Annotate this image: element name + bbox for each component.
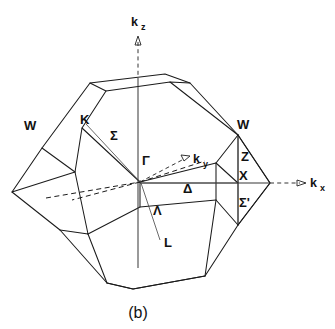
kx-label-main: k (310, 176, 317, 190)
edge-bottom-front-rim (107, 276, 205, 289)
label-z-point: Z (241, 149, 249, 164)
edge-front-lower-left (88, 182, 140, 234)
label-w-left: W (24, 118, 37, 133)
label-lambda: Λ (153, 203, 162, 218)
brillouin-zone-drawing: k z k y k x Γ W K Σ W Z X Σ' Δ Λ L (0, 0, 335, 329)
edge-upper-left-to-left-vertex (12, 148, 75, 192)
label-x-point: X (239, 168, 248, 183)
label-sigma-prime: Σ' (239, 195, 250, 210)
edge-left-square-to-bottom (88, 234, 107, 283)
ky-axis-hidden (72, 182, 140, 200)
kz-label-main: k (131, 15, 138, 29)
edge-k-left-ridge (75, 91, 106, 172)
kz-axis-label: k z (131, 15, 146, 32)
figure-caption: (b) (128, 304, 148, 321)
edge-front-right-facet-lower (140, 200, 216, 207)
edge-left-square-lower (60, 172, 88, 234)
label-delta: Δ (183, 181, 192, 196)
edge-upper-right-facet (170, 82, 238, 135)
label-w-right: W (237, 117, 250, 132)
hidden-edge-back-left (46, 182, 140, 198)
label-k-point: K (80, 112, 90, 127)
label-l-point: L (164, 235, 172, 250)
edge-front-right-to-bottom (205, 200, 216, 276)
ky-label-subscript: y (203, 159, 208, 169)
symmetry-lines-group (86, 124, 238, 240)
edge-right-square-top-left (216, 135, 238, 183)
brillouin-zone-figure: k z k y k x Γ W K Σ W Z X Σ' Δ Λ L (0, 0, 335, 329)
label-gamma: Γ (142, 153, 150, 168)
kz-label-subscript: z (141, 22, 146, 32)
kx-arrowhead (297, 180, 306, 186)
kx-label-subscript: x (320, 183, 325, 193)
label-sigma-left: Σ (110, 128, 118, 143)
ky-label-main: k (193, 152, 200, 166)
ky-arrowhead (181, 155, 190, 161)
kx-axis-label: k x (310, 176, 325, 193)
